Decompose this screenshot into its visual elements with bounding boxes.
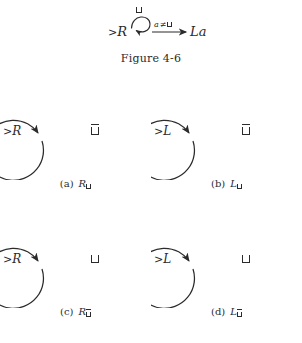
panel-c-caption-subscript — [86, 311, 91, 319]
transition-blank-icon — [167, 22, 172, 27]
panel-b: >L (b)L — [151, 88, 302, 215]
panel-d-marker: > — [154, 253, 163, 266]
panel-b-blank-icon — [242, 127, 250, 135]
panel-c-tag: (c) — [60, 306, 73, 317]
panel-a-diagram — [0, 88, 151, 180]
self-loop-arc — [132, 17, 151, 32]
panel-a-caption-symbol: R — [79, 178, 87, 189]
panel-c-caption-symbol: R — [78, 306, 86, 317]
panel-b-diagram — [151, 88, 302, 180]
target-state-arg: a — [199, 24, 207, 39]
panel-a-marker: > — [3, 125, 12, 138]
panel-c-marker: > — [3, 253, 12, 266]
panel-b-tag: (b) — [211, 178, 225, 189]
panel-d-diagram — [151, 216, 302, 308]
panel-a-tag: (a) — [60, 178, 74, 189]
panel-c-blank-icon — [91, 255, 99, 263]
panel-c-caption: (c)R — [0, 306, 151, 319]
panel-a-caption: (a)R — [0, 178, 151, 191]
top-start-state: >R — [108, 24, 127, 39]
start-state-name: R — [117, 24, 127, 39]
panel-c-diagram — [0, 216, 151, 308]
self-loop-blank-icon — [136, 7, 142, 13]
panel-b-state-name: L — [163, 124, 171, 138]
panel-b-caption: (b)L — [151, 178, 302, 191]
transition-relation: ≠ — [160, 20, 167, 29]
panel-c-state-name: R — [12, 252, 21, 266]
start-marker: > — [108, 26, 117, 39]
panel-a-blank-icon — [91, 127, 99, 135]
target-state-head: L — [190, 24, 199, 39]
transition-label: a≠ — [154, 20, 172, 29]
panel-d-caption: (d)L — [151, 306, 302, 319]
panel-d-tag: (d) — [211, 306, 225, 317]
panel-d: >L (d)L — [151, 216, 302, 343]
top-target-state: La — [190, 24, 206, 39]
panel-a-state-name: R — [12, 124, 21, 138]
panel-grid: >R (a)R >L (b)L — [0, 88, 302, 343]
panel-d-state-label: >L — [154, 252, 171, 266]
top-machine-diagram: >R a≠ La — [0, 0, 302, 48]
panel-b-marker: > — [154, 125, 163, 138]
panel-a-caption-subscript — [86, 183, 91, 191]
panel-c: >R (c)R — [0, 216, 151, 343]
panel-d-state-name: L — [163, 252, 171, 266]
panel-a: >R (a)R — [0, 88, 151, 215]
panel-d-caption-subscript — [237, 311, 242, 319]
transition-variable: a — [154, 20, 159, 29]
panel-c-state-label: >R — [3, 252, 21, 266]
panel-d-blank-icon — [242, 255, 250, 263]
panel-b-caption-subscript — [237, 183, 242, 191]
panel-b-caption-symbol: L — [230, 178, 237, 189]
panel-a-state-label: >R — [3, 124, 21, 138]
figure-caption: Figure 4-6 — [0, 52, 302, 65]
panel-b-state-label: >L — [154, 124, 171, 138]
panel-d-caption-symbol: L — [230, 306, 237, 317]
